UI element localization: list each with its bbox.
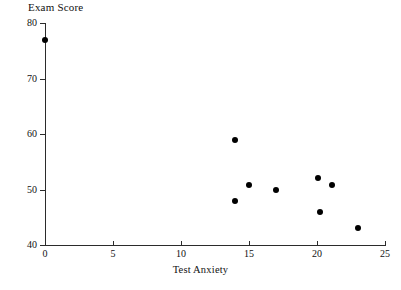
data-point xyxy=(246,182,252,188)
y-tick-label: 60 xyxy=(11,129,37,139)
data-point xyxy=(273,187,279,193)
x-tick-label: 10 xyxy=(169,249,193,259)
x-tick-mark xyxy=(45,241,46,246)
data-point xyxy=(232,137,238,143)
scatter-plot: Exam Score 4050607080 0510152025 Test An… xyxy=(0,0,401,290)
y-tick-label: 80 xyxy=(11,18,37,28)
x-tick-mark xyxy=(317,241,318,246)
y-tick-mark xyxy=(40,79,45,80)
x-tick-mark xyxy=(113,241,114,246)
data-point xyxy=(329,182,335,188)
data-point xyxy=(317,209,323,215)
x-tick-label: 5 xyxy=(101,249,125,259)
x-axis-line xyxy=(45,245,385,246)
data-point xyxy=(355,225,361,231)
x-tick-mark xyxy=(385,241,386,246)
x-tick-mark xyxy=(181,241,182,246)
y-tick-label: 50 xyxy=(11,185,37,195)
plot-title: Exam Score xyxy=(28,1,83,13)
x-tick-label: 25 xyxy=(373,249,397,259)
x-tick-label: 20 xyxy=(305,249,329,259)
y-tick-label: 70 xyxy=(11,74,37,84)
data-point xyxy=(232,198,238,204)
data-point xyxy=(42,37,48,43)
y-axis-line xyxy=(45,23,46,245)
x-tick-mark xyxy=(249,241,250,246)
y-tick-mark xyxy=(40,134,45,135)
x-axis-title: Test Anxiety xyxy=(0,264,401,275)
y-tick-mark xyxy=(40,23,45,24)
y-tick-mark xyxy=(40,190,45,191)
data-point xyxy=(315,175,321,181)
x-tick-label: 15 xyxy=(237,249,261,259)
x-tick-label: 0 xyxy=(33,249,57,259)
